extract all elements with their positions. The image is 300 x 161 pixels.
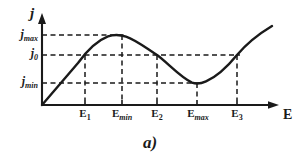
x-tick-base-e-max: E [187,107,194,119]
y-axis-label: j [30,6,34,21]
y-tick-label-j-max: jmax [0,28,38,43]
x-tick-sub-e-min: min [119,113,132,122]
x-tick-label-e-1: E1 [65,108,105,122]
x-axis-label: E [283,108,292,122]
x-tick-base-e-3: E [231,107,238,119]
x-tick-label-e-max: Emax [175,108,221,122]
x-axis-arrowhead [268,101,279,109]
x-tick-sub-e-1: 1 [87,113,91,122]
x-tick-label-e-2: E2 [137,108,177,122]
figure-caption: a) [0,134,300,151]
x-tick-sub-e-3: 3 [239,113,243,122]
figure-container: j E jmax j0 jmin E1 Emin E2 Emax E3 a) [0,0,300,161]
y-tick-label-j-0: j0 [0,47,38,62]
y-tick-sub-j-0: 0 [34,53,38,62]
axes-group [38,13,279,109]
x-tick-sub-e-max: max [195,113,209,122]
x-tick-base-e-2: E [151,107,158,119]
y-axis-arrowhead [38,13,46,24]
x-tick-sub-e-2: 2 [159,113,163,122]
x-tick-base-e-1: E [79,107,86,119]
vertical-guides-group [85,35,237,100]
y-tick-label-j-min: jmin [0,75,38,90]
x-tick-label-e-3: E3 [217,108,257,122]
y-tick-sub-j-min: min [25,81,38,90]
horizontal-guides-group [42,35,240,83]
y-tick-sub-j-max: max [24,34,38,43]
